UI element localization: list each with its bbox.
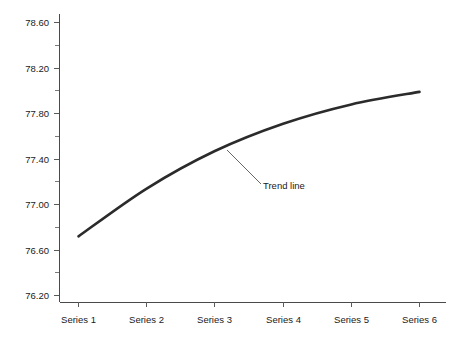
y-tick-label: 77.00: [25, 199, 49, 210]
x-tick-label: Series 6: [402, 314, 437, 325]
x-axis-tick-labels: Series 1 Series 2 Series 3 Series 4 Seri…: [61, 314, 437, 325]
y-tick-label: 78.20: [25, 63, 49, 74]
y-tick-label: 77.80: [25, 108, 49, 119]
y-axis-major-ticks: [54, 23, 59, 296]
y-tick-label: 76.60: [25, 245, 49, 256]
x-tick-label: Series 1: [61, 314, 96, 325]
line-chart: 78.60 78.20 77.80 77.40 77.00 76.60 76.2…: [0, 0, 453, 353]
plot-area-background: [59, 14, 453, 302]
y-tick-label: 77.40: [25, 154, 49, 165]
x-tick-label: Series 5: [334, 314, 369, 325]
chart-container: 78.60 78.20 77.80 77.40 77.00 76.60 76.2…: [0, 0, 453, 353]
y-tick-label: 76.20: [25, 290, 49, 301]
y-tick-label: 78.60: [25, 17, 49, 28]
x-tick-label: Series 4: [266, 314, 301, 325]
y-axis-tick-labels: 78.60 78.20 77.80 77.40 77.00 76.60 76.2…: [25, 17, 49, 301]
x-tick-label: Series 3: [197, 314, 232, 325]
x-tick-label: Series 2: [129, 314, 164, 325]
trend-line-annotation-label: Trend line: [263, 180, 305, 191]
